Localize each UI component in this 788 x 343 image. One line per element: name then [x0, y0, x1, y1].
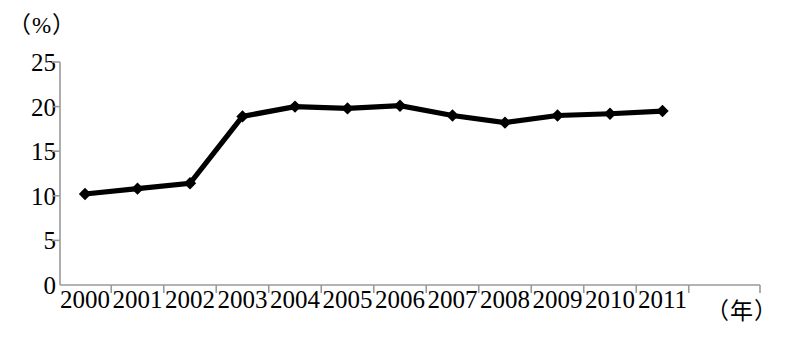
- y-axis-ticks: [52, 62, 60, 240]
- data-point-marker: [131, 182, 143, 194]
- data-point-marker: [499, 116, 511, 128]
- data-point-marker: [289, 100, 301, 112]
- x-axis-tick-label: 2003: [218, 287, 268, 312]
- x-axis-tick-label: 2002: [165, 287, 215, 312]
- x-axis-tick-label: 2010: [585, 287, 635, 312]
- data-point-marker: [446, 109, 458, 121]
- data-point-marker: [394, 100, 406, 112]
- data-point-marker: [551, 109, 563, 121]
- x-axis-tick-label: 2000: [60, 287, 110, 312]
- data-point-marker: [604, 108, 616, 120]
- x-axis-tick-label: 2001: [113, 287, 163, 312]
- x-axis-tick-label: 2009: [533, 287, 583, 312]
- axis-lines: [60, 62, 760, 285]
- data-series-line: [85, 106, 663, 194]
- data-point-marker: [656, 105, 668, 117]
- x-axis-tick-label: 2011: [638, 287, 687, 312]
- line-chart: （%） 0510152025 （年） 200020012002200320042…: [0, 0, 788, 343]
- data-point-marker: [341, 102, 353, 114]
- data-point-marker: [79, 188, 91, 200]
- x-axis-tick-label: 2008: [480, 287, 530, 312]
- x-axis-tick-label: 2004: [270, 287, 320, 312]
- x-axis-tick-label: 2006: [375, 287, 425, 312]
- x-axis-unit-label: （年）: [706, 300, 778, 323]
- x-axis-tick-label: 2007: [428, 287, 478, 312]
- x-axis-tick-label: 2005: [323, 287, 373, 312]
